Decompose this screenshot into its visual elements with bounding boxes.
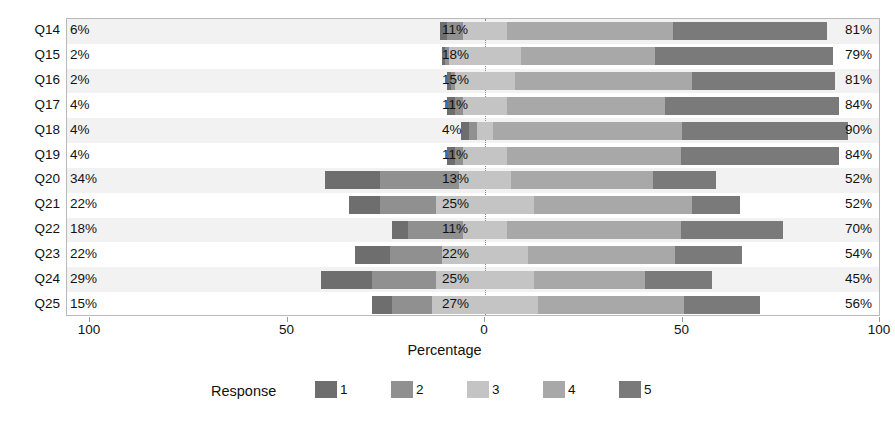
bar-q19	[447, 147, 838, 165]
bar-q17	[447, 97, 838, 115]
bar-segment-response-4	[534, 271, 645, 289]
y-axis-label-q20: Q20	[18, 172, 60, 186]
bar-segment-response-5	[692, 196, 739, 214]
bar-q24	[321, 271, 712, 289]
neutral-percent-q25: 27%	[442, 297, 469, 311]
bar-segment-response-2	[380, 196, 435, 214]
bar-segment-response-4	[538, 296, 684, 314]
left-percent-q21: 22%	[70, 197, 97, 211]
left-percent-q15: 2%	[70, 48, 90, 62]
legend-key-label: 1	[340, 383, 348, 397]
x-axis-title: Percentage	[0, 342, 889, 358]
bar-segment-response-2	[390, 246, 441, 264]
bar-segment-response-3	[463, 97, 506, 115]
left-percent-q14: 6%	[70, 23, 90, 37]
right-percent-q19: 84%	[832, 148, 872, 162]
left-percent-q25: 15%	[70, 297, 97, 311]
bar-segment-response-5	[692, 72, 834, 90]
legend: Response 12345	[0, 379, 889, 405]
bar-q14	[440, 22, 827, 40]
bar-segment-response-4	[515, 72, 693, 90]
left-percent-q24: 29%	[70, 272, 97, 286]
neutral-percent-q23: 22%	[442, 247, 469, 261]
legend-key-label: 2	[416, 383, 424, 397]
right-percent-q20: 52%	[832, 172, 872, 186]
legend-title: Response	[211, 383, 276, 399]
y-axis-label-q21: Q21	[18, 197, 60, 211]
legend-swatch-5	[619, 381, 641, 398]
right-percent-q25: 56%	[832, 297, 872, 311]
bar-segment-response-5	[681, 221, 784, 239]
bar-segment-response-4	[528, 246, 674, 264]
bar-q18	[461, 122, 848, 140]
neutral-percent-q20: 13%	[442, 172, 469, 186]
bar-segment-response-5	[681, 147, 839, 165]
y-axis-label-q14: Q14	[18, 23, 60, 37]
bar-q23	[355, 246, 742, 264]
x-tick-label: 50	[652, 323, 712, 337]
y-axis-label-q25: Q25	[18, 297, 60, 311]
bar-segment-response-4	[507, 22, 673, 40]
y-axis-label-q17: Q17	[18, 98, 60, 112]
neutral-percent-q17: 11%	[442, 98, 468, 112]
bar-segment-response-5	[655, 47, 833, 65]
bar-segment-response-4	[534, 196, 692, 214]
neutral-percent-q16: 15%	[442, 73, 469, 87]
x-tick-label: 100	[59, 323, 119, 337]
right-percent-q22: 70%	[832, 222, 872, 236]
bar-segment-response-4	[521, 47, 655, 65]
neutral-percent-q14: 11%	[442, 23, 468, 37]
right-percent-q24: 45%	[832, 272, 872, 286]
neutral-percent-q15: 18%	[442, 48, 469, 62]
left-percent-q18: 4%	[70, 123, 90, 137]
y-axis-label-q23: Q23	[18, 247, 60, 261]
bar-segment-response-1	[321, 271, 372, 289]
left-percent-q22: 18%	[70, 222, 97, 236]
bar-segment-response-5	[665, 97, 839, 115]
neutral-percent-q18: 4%	[442, 123, 462, 137]
bar-segment-response-2	[392, 296, 432, 314]
x-tick-label: 100	[849, 323, 895, 337]
bar-segment-response-4	[511, 171, 653, 189]
left-percent-q20: 34%	[70, 172, 97, 186]
y-axis-label-q18: Q18	[18, 123, 60, 137]
bar-q15	[442, 47, 833, 65]
neutral-percent-q22: 11%	[442, 222, 468, 236]
bar-segment-response-1	[355, 246, 391, 264]
legend-key-label: 3	[492, 383, 500, 397]
bar-segment-response-5	[645, 271, 712, 289]
legend-key-label: 5	[644, 383, 652, 397]
left-percent-q17: 4%	[70, 98, 90, 112]
y-axis-label-q19: Q19	[18, 148, 60, 162]
legend-swatch-3	[467, 381, 489, 398]
bar-segment-response-3	[477, 122, 493, 140]
legend-key-label: 4	[568, 383, 576, 397]
bar-segment-response-5	[675, 246, 742, 264]
bar-segment-response-5	[673, 22, 827, 40]
bar-segment-response-1	[325, 171, 380, 189]
bar-q20	[325, 171, 716, 189]
y-axis-label-q15: Q15	[18, 48, 60, 62]
bar-segment-response-2	[469, 122, 477, 140]
bar-segment-response-1	[461, 122, 469, 140]
bar-segment-response-5	[682, 122, 848, 140]
right-percent-q23: 54%	[832, 247, 872, 261]
bar-segment-response-4	[507, 147, 681, 165]
left-percent-q19: 4%	[70, 148, 90, 162]
bar-segment-response-3	[463, 221, 506, 239]
left-percent-q16: 2%	[70, 73, 90, 87]
y-axis-label-q22: Q22	[18, 222, 60, 236]
right-percent-q21: 52%	[832, 197, 872, 211]
left-percent-q23: 22%	[70, 247, 97, 261]
right-percent-q15: 79%	[832, 48, 872, 62]
x-tick-label: 0	[454, 323, 514, 337]
right-percent-q18: 90%	[832, 123, 872, 137]
bar-segment-response-4	[493, 122, 683, 140]
plot-panel	[66, 18, 880, 316]
neutral-percent-q21: 25%	[442, 197, 469, 211]
bar-segment-response-4	[507, 97, 665, 115]
right-percent-q14: 81%	[832, 23, 872, 37]
bar-segment-response-5	[684, 296, 759, 314]
legend-swatch-1	[315, 381, 337, 398]
